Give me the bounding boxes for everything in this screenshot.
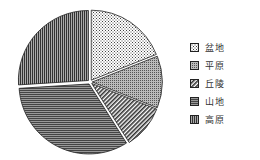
swatch-vertical-icon bbox=[190, 115, 199, 124]
legend-item-plateau: 高原 bbox=[190, 110, 225, 128]
legend-label: 盆地 bbox=[205, 41, 225, 54]
swatch-diagonal-icon bbox=[190, 79, 199, 88]
legend-item-hills: 丘陵 bbox=[190, 74, 225, 92]
legend-item-plain: 平原 bbox=[190, 56, 225, 74]
swatch-horizontal-icon bbox=[190, 97, 199, 106]
legend-label: 高原 bbox=[205, 113, 225, 126]
legend: 盆地 平原 丘陵 山地 高原 bbox=[190, 38, 225, 128]
legend-label: 丘陵 bbox=[205, 77, 225, 90]
pie-slice bbox=[18, 10, 88, 84]
legend-item-mountains: 山地 bbox=[190, 92, 225, 110]
legend-label: 山地 bbox=[205, 95, 225, 108]
swatch-dots-icon bbox=[190, 43, 199, 52]
legend-label: 平原 bbox=[205, 59, 225, 72]
swatch-grid-icon bbox=[190, 61, 199, 70]
legend-item-basin: 盆地 bbox=[190, 38, 225, 56]
pie-chart bbox=[0, 0, 180, 160]
